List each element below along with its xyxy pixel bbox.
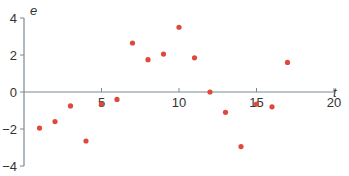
data-point [192, 55, 197, 60]
y-tick-label: 4 [10, 11, 17, 26]
data-point [223, 110, 228, 115]
y-tick-label: −2 [2, 122, 17, 137]
data-point [99, 101, 104, 106]
x-tick-label: 10 [172, 95, 186, 110]
y-tick-label: 2 [10, 48, 17, 63]
y-tick-label: −4 [2, 159, 17, 174]
data-point [130, 40, 135, 45]
scatter-chart: 420−2−4 5101520 e t [0, 0, 349, 176]
data-points [37, 25, 290, 150]
data-point [207, 89, 212, 94]
data-point [269, 104, 274, 109]
y-tick-label: 0 [10, 85, 17, 100]
data-point [114, 97, 119, 102]
data-point [83, 138, 88, 143]
data-point [176, 25, 181, 30]
data-point [285, 60, 290, 65]
data-point [161, 51, 166, 56]
data-point [52, 119, 57, 124]
data-point [37, 125, 42, 130]
y-axis-ticks: 420−2−4 [2, 11, 24, 174]
data-point [238, 144, 243, 149]
data-point [254, 101, 259, 106]
data-point [145, 57, 150, 62]
y-axis-label: e [30, 3, 37, 18]
x-axis-ticks: 5101520 [98, 88, 341, 110]
data-point [68, 103, 73, 108]
